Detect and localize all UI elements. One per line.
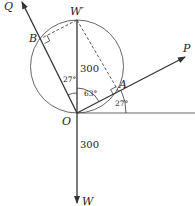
vector-q — [22, 2, 77, 113]
label-q: Q — [4, 0, 13, 13]
force-diagram: Q W′ B A P O W 300 300 27° 63° 27° — [0, 0, 195, 206]
label-o: O — [62, 115, 71, 128]
angle-label-27-right: 27° — [115, 99, 129, 108]
magnitude-lower: 300 — [80, 139, 99, 150]
label-p: P — [182, 42, 191, 55]
label-w: W — [82, 195, 95, 206]
angle-label-63: 63° — [84, 89, 98, 98]
label-w-prime: W′ — [70, 5, 84, 18]
magnitude-upper: 300 — [80, 63, 99, 74]
label-a: A — [118, 78, 127, 91]
label-b: B — [28, 32, 37, 45]
dashed-w-prime-a — [77, 20, 119, 92]
angle-label-27-left: 27° — [63, 75, 77, 84]
arc-27-left — [68, 93, 77, 95]
